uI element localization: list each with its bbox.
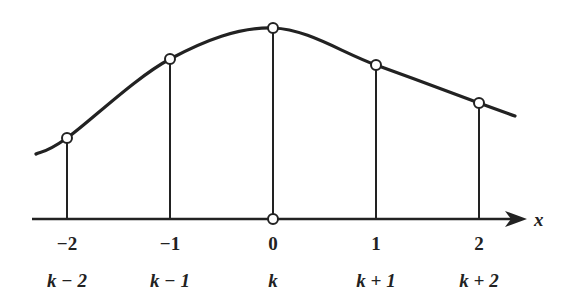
k-index-label: k bbox=[268, 270, 278, 291]
smooth-curve bbox=[36, 28, 515, 154]
tick-label: 1 bbox=[371, 233, 381, 254]
tick-label: −2 bbox=[57, 233, 77, 254]
sample-point-marker bbox=[165, 54, 175, 64]
origin-marker bbox=[268, 214, 278, 224]
sample-point-marker bbox=[268, 23, 278, 33]
sample-point-marker bbox=[62, 133, 72, 143]
tick-label: −1 bbox=[160, 233, 180, 254]
sample-point-marker bbox=[474, 98, 484, 108]
tick-label: 0 bbox=[268, 233, 278, 254]
k-index-label: k − 1 bbox=[150, 270, 190, 291]
sample-point-marker bbox=[371, 60, 381, 70]
k-index-label: k + 2 bbox=[459, 270, 499, 291]
k-index-label: k − 2 bbox=[47, 270, 88, 291]
tick-labels: −2−1012 bbox=[57, 233, 484, 254]
sampled-curve-diagram: x −2−1012 k − 2k − 1kk + 1k + 2 bbox=[0, 0, 573, 306]
diagram-canvas: x −2−1012 k − 2k − 1kk + 1k + 2 bbox=[0, 0, 573, 306]
x-axis-label: x bbox=[533, 209, 544, 230]
k-index-label: k + 1 bbox=[356, 270, 395, 291]
sample-stems bbox=[67, 28, 479, 219]
tick-label: 2 bbox=[474, 233, 484, 254]
k-index-labels: k − 2k − 1kk + 1k + 2 bbox=[47, 270, 499, 291]
